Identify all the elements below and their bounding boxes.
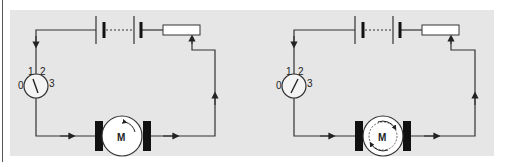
battery-icon — [96, 16, 141, 44]
meter-label-0: 0 — [18, 80, 24, 91]
meter-label-2: 2 — [40, 66, 46, 77]
meter-label-1: 1 — [28, 66, 34, 77]
circuit-right: 0 1 2 3 M — [276, 16, 475, 156]
brush-right — [403, 121, 411, 151]
circuit-left: 0 1 2 3 M — [18, 16, 215, 156]
motor-label: M — [117, 132, 125, 143]
brush-right — [143, 121, 151, 151]
meter-label-2: 2 — [298, 66, 304, 77]
motor-icon: M — [355, 116, 411, 156]
rheostat-icon — [422, 25, 459, 35]
battery-icon — [355, 16, 400, 44]
motor-label: M — [378, 132, 386, 143]
meter-label-3: 3 — [49, 78, 55, 89]
brush-left — [355, 121, 363, 151]
circuit-diagrams: 0 1 2 3 M — [0, 0, 505, 167]
meter-label-3: 3 — [307, 78, 313, 89]
motor-icon: M — [95, 116, 151, 156]
rheostat-icon — [163, 25, 200, 35]
meter-label-1: 1 — [286, 66, 292, 77]
meter-label-0: 0 — [276, 80, 282, 91]
